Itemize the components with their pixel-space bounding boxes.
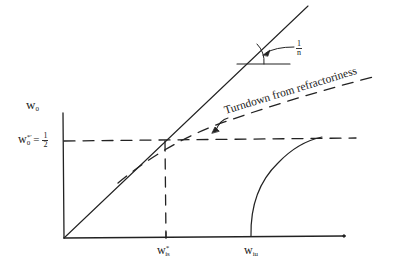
x-label-wis-sub: is — [165, 250, 170, 258]
x-label-wis: w*is — [157, 243, 170, 258]
x-label-wiu-base: w — [244, 243, 253, 257]
x-axis — [64, 236, 344, 238]
diagram-canvas — [0, 0, 393, 271]
level-label-sub: 0 — [27, 139, 31, 147]
slope-label: 1 n — [296, 38, 302, 57]
x-label-wiu: wiu — [244, 243, 258, 258]
diagram: w0 w*′0 = 1 2 1 n Turndown from refracto… — [0, 0, 393, 271]
diagonal-line — [64, 6, 308, 238]
level-label: w*′0 = 1 2 — [18, 132, 48, 149]
turndown-arrowhead — [212, 127, 219, 133]
y-axis-label: w0 — [26, 97, 39, 113]
level-label-fraction: 1 2 — [42, 132, 48, 149]
wis-dashed-line — [165, 141, 166, 238]
level-label-eq: = — [33, 133, 39, 145]
turndown-dashed-curve — [118, 77, 373, 183]
slope-label-fraction: 1 n — [296, 40, 302, 57]
level-label-base: w — [18, 132, 27, 146]
y-axis-label-sub: 0 — [35, 105, 39, 113]
level-label-den: 2 — [42, 141, 48, 149]
y-axis-label-base: w — [26, 97, 35, 112]
slope-label-den: n — [296, 49, 302, 57]
slope-arrowhead — [263, 50, 270, 56]
x-label-wiu-sub: iu — [253, 250, 258, 258]
y-axis — [63, 113, 64, 238]
x-axis-end-dot — [343, 235, 345, 237]
wiu-curve — [251, 137, 322, 236]
